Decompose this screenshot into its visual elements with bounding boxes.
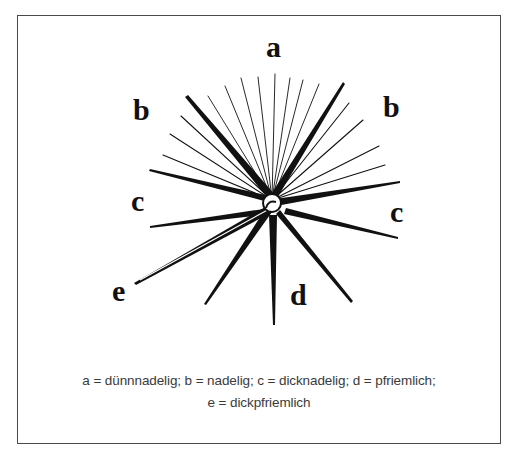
awl-spines-d xyxy=(204,208,353,325)
figure-caption: a = dünnnadelig; b = nadelig; c = dickna… xyxy=(17,370,501,414)
thin-needle-spines-a xyxy=(208,74,319,200)
label-e: e xyxy=(112,276,125,306)
areole-center xyxy=(263,194,281,212)
caption-line-1: a = dünnnadelig; b = nadelig; c = dickna… xyxy=(17,370,501,392)
label-b-left: b xyxy=(133,95,150,125)
label-c-right: c xyxy=(390,197,403,227)
label-c-left: c xyxy=(131,186,144,216)
label-d: d xyxy=(290,280,307,310)
label-b-right: b xyxy=(383,92,400,122)
caption-line-2: e = dickpfriemlich xyxy=(17,392,501,414)
label-a: a xyxy=(266,32,281,62)
thick-awl-spine-e xyxy=(134,203,276,285)
